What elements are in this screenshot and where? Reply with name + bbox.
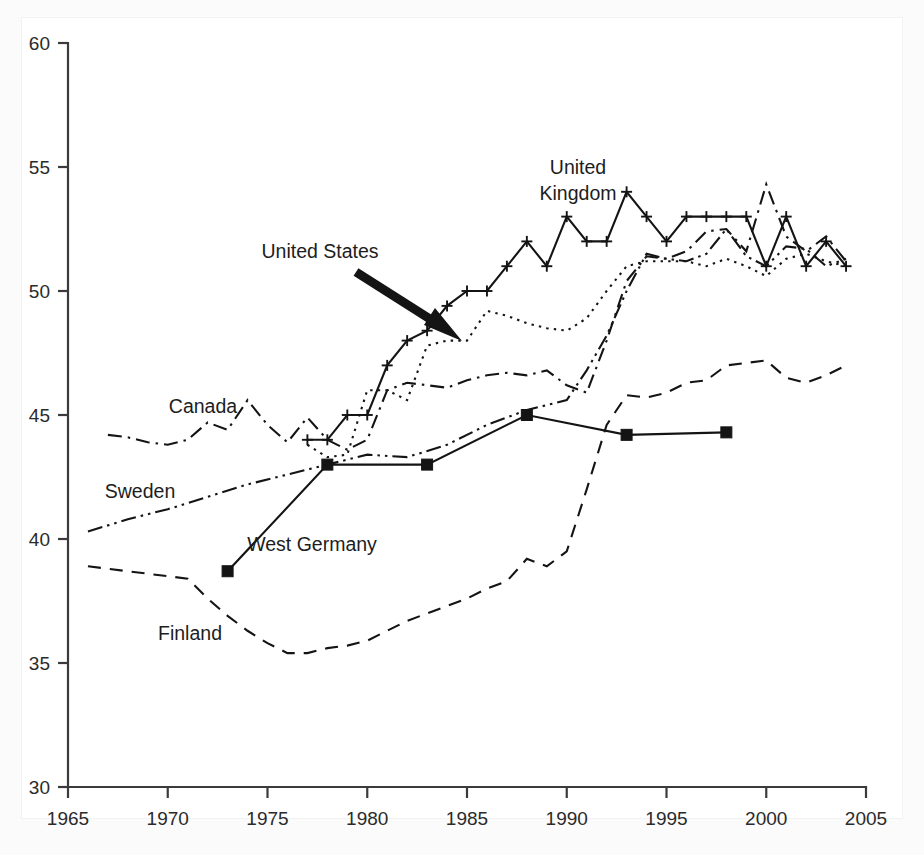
data-point-marker xyxy=(621,429,632,440)
x-tick-label: 2005 xyxy=(845,808,887,829)
x-tick-label: 1975 xyxy=(246,808,288,829)
x-tick-label: 1995 xyxy=(645,808,687,829)
series-line xyxy=(307,192,846,440)
series-layer xyxy=(88,184,852,653)
series-label-united-kingdom-line2: Kingdom xyxy=(540,182,617,204)
y-tick-label: 40 xyxy=(29,529,50,550)
data-point-marker xyxy=(721,427,732,438)
series-label-finland: Finland xyxy=(158,622,222,644)
series-label-west-germany: West Germany xyxy=(247,533,377,555)
data-point-marker xyxy=(222,566,233,577)
x-tick-label: 1970 xyxy=(147,808,189,829)
series-line xyxy=(307,254,846,457)
x-axis-ticks: 196519701975198019851990199520002005 xyxy=(47,787,887,829)
line-chart: 30354045505560 1965197019751980198519901… xyxy=(0,0,924,855)
x-tick-label: 1965 xyxy=(47,808,89,829)
data-point-marker xyxy=(521,410,532,421)
series-united-kingdom xyxy=(302,186,852,445)
y-tick-label: 55 xyxy=(29,157,50,178)
y-tick-label: 30 xyxy=(29,777,50,798)
series-label-canada: Canada xyxy=(169,395,237,417)
chart-figure: 30354045505560 1965197019751980198519901… xyxy=(0,0,924,855)
series-label-united-kingdom-line1: United xyxy=(550,156,606,178)
annotation-layer: United Kingdom United States Canada Swed… xyxy=(105,156,617,644)
x-tick-label: 1980 xyxy=(346,808,388,829)
y-tick-label: 45 xyxy=(29,405,50,426)
x-tick-label: 2000 xyxy=(745,808,787,829)
series-label-united-states: United States xyxy=(261,240,378,262)
data-point-marker xyxy=(322,459,333,470)
x-tick-label: 1985 xyxy=(446,808,488,829)
y-axis-ticks: 30354045505560 xyxy=(29,33,68,798)
data-point-marker xyxy=(422,459,433,470)
x-tick-label: 1990 xyxy=(546,808,588,829)
y-tick-label: 50 xyxy=(29,281,50,302)
y-tick-label: 60 xyxy=(29,33,50,54)
y-tick-label: 35 xyxy=(29,653,50,674)
series-united-states xyxy=(307,254,846,457)
series-label-sweden: Sweden xyxy=(105,480,175,502)
